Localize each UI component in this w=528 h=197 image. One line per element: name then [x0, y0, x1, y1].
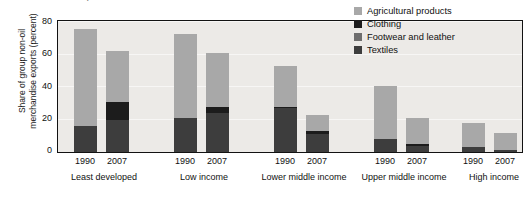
bar-segment-textiles — [406, 146, 429, 152]
bar-high-income-1990[interactable] — [462, 123, 485, 152]
bar-least-developed-1990[interactable] — [74, 29, 97, 152]
legend-label-agricultural: Agricultural products — [367, 6, 452, 16]
bar-segment-textiles — [174, 118, 197, 152]
x-tick-year-5: 2007 — [294, 156, 340, 166]
legend-label-footwear: Footwear and leather — [367, 32, 455, 42]
x-tick-year-1: 2007 — [94, 156, 140, 166]
chart-figure: merchandise exports Share of group non-o… — [0, 0, 528, 197]
bar-segment-agricultural — [74, 29, 97, 126]
bar-segment-textiles — [274, 108, 297, 152]
bar-segment-agricultural — [406, 118, 429, 144]
bar-segment-textiles — [374, 139, 397, 152]
y-tick-label-80: 80 — [30, 16, 52, 26]
legend-item-footwear[interactable]: Footwear and leather — [354, 30, 455, 43]
bar-least-developed-2007[interactable] — [106, 51, 129, 152]
y-tick-label-40: 40 — [30, 81, 52, 91]
y-tick-label-60: 60 — [30, 48, 52, 58]
y-tick-label-20: 20 — [30, 113, 52, 123]
y-axis-title-line1: Share of group non-oil — [17, 0, 28, 146]
bar-upper-middle-income-2007[interactable] — [406, 118, 429, 152]
legend-swatch-agricultural — [354, 7, 362, 15]
bar-segment-agricultural — [274, 66, 297, 107]
bar-segment-clothing — [106, 102, 129, 120]
legend: Agricultural productsClothingFootwear an… — [354, 4, 455, 56]
bar-segment-textiles — [494, 150, 517, 152]
bar-segment-agricultural — [206, 53, 229, 107]
legend-swatch-footwear — [354, 33, 362, 41]
bar-segment-textiles — [462, 147, 485, 152]
bar-segment-agricultural — [306, 115, 329, 131]
bar-segment-textiles — [74, 126, 97, 152]
bar-segment-agricultural — [462, 123, 485, 147]
bar-segment-agricultural — [174, 34, 197, 118]
bar-segment-agricultural — [374, 86, 397, 140]
bar-segment-textiles — [306, 134, 329, 152]
legend-item-textiles[interactable]: Textiles — [354, 43, 455, 56]
bar-segment-textiles — [206, 113, 229, 152]
x-tick-year-3: 2007 — [194, 156, 240, 166]
x-tick-year-9: 2007 — [482, 156, 528, 166]
bar-high-income-2007[interactable] — [494, 133, 517, 152]
bar-segment-agricultural — [106, 51, 129, 101]
legend-item-agricultural[interactable]: Agricultural products — [354, 4, 455, 17]
bar-low-income-2007[interactable] — [206, 53, 229, 152]
legend-swatch-textiles — [354, 46, 362, 54]
bar-lower-middle-income-1990[interactable] — [274, 66, 297, 152]
legend-swatch-clothing — [354, 20, 362, 28]
y-tick-label-0: 0 — [30, 145, 52, 155]
legend-label-textiles: Textiles — [367, 45, 398, 55]
bar-segment-textiles — [106, 120, 129, 152]
bar-lower-middle-income-2007[interactable] — [306, 115, 329, 152]
bar-segment-agricultural — [494, 133, 517, 151]
x-group-label-high-income: High income — [434, 172, 528, 182]
legend-label-clothing: Clothing — [367, 19, 401, 29]
bar-low-income-1990[interactable] — [174, 34, 197, 152]
x-tick-year-7: 2007 — [394, 156, 440, 166]
legend-item-clothing[interactable]: Clothing — [354, 17, 455, 30]
bar-upper-middle-income-1990[interactable] — [374, 86, 397, 153]
